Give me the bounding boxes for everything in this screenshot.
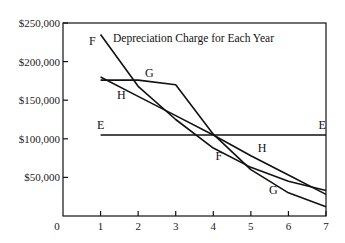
x-tick-label: 3 (173, 220, 179, 232)
series-lines (101, 35, 326, 207)
series-label-g: G (269, 183, 278, 197)
series-label-e: E (319, 118, 326, 132)
series-label-f: F (89, 34, 96, 48)
chart-title: Depreciation Charge for Each Year (113, 32, 274, 45)
series-line-f (101, 35, 326, 191)
y-tick-label: $50,000 (24, 171, 60, 183)
x-tick-label: 5 (248, 220, 254, 232)
series-label-h: H (258, 141, 267, 155)
series-label-g: G (145, 66, 154, 80)
series-line-g (101, 80, 326, 207)
x-tick-label: 0 (54, 220, 60, 232)
x-tick-label: 4 (211, 220, 217, 232)
y-tick-label: $150,000 (19, 94, 61, 106)
series-label-e: E (97, 118, 104, 132)
x-tick-label: 7 (323, 220, 329, 232)
series-label-h: H (117, 88, 126, 102)
y-tick-label: $250,000 (19, 17, 61, 29)
y-tick-label: $200,000 (19, 56, 61, 68)
x-tick-label: 1 (98, 220, 104, 232)
y-axis-ticks: $50,000$100,000$150,000$200,000$250,000 (19, 17, 68, 183)
depreciation-line-chart: $50,000$100,000$150,000$200,000$250,000 … (0, 0, 345, 243)
x-tick-label: 6 (286, 220, 292, 232)
series-label-f: F (216, 149, 223, 163)
series-labels: FFGGHHEE (89, 34, 326, 198)
x-axis-ticks: 01234567 (54, 211, 329, 232)
x-tick-label: 2 (135, 220, 141, 232)
y-tick-label: $100,000 (19, 133, 61, 145)
